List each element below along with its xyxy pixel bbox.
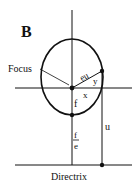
ellipse-point [100, 69, 104, 73]
y-label: y [93, 76, 98, 86]
panel-label: B [21, 23, 32, 40]
u-label: u [105, 121, 110, 132]
focus-pointer [40, 69, 69, 85]
f-label: f [74, 98, 78, 109]
vertex-point [70, 113, 74, 117]
focus-label: Focus [8, 63, 32, 74]
ellipse-focus-directrix-diagram: B Focus eu y x f f e u Directrix [0, 0, 136, 187]
f-over-e-numerator: f [74, 130, 77, 140]
focus-point [70, 86, 75, 91]
x-label: x [83, 90, 88, 100]
directrix-label: Directrix [51, 171, 87, 182]
f-over-e-denominator: e [74, 141, 78, 151]
eu-label: eu [78, 70, 91, 83]
directrix-point [100, 163, 104, 167]
